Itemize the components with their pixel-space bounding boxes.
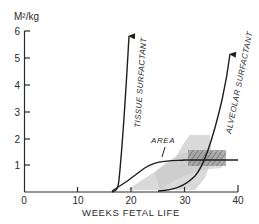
- y-axis-label: M²/kg: [14, 11, 39, 22]
- y-axis: [25, 31, 31, 192]
- y-tick-5: 5: [14, 53, 20, 64]
- x-axis-label: WEEKS FETAL LIFE: [82, 207, 180, 218]
- x-tick-10: 10: [72, 195, 84, 206]
- x-tick-0: 0: [21, 195, 27, 206]
- x-tick-40: 40: [232, 195, 244, 206]
- y-tick-2: 2: [14, 134, 20, 145]
- x-tick-labels: 0 10 20 30 40: [21, 195, 244, 206]
- y-tick-6: 6: [14, 26, 20, 37]
- y-tick-4: 4: [14, 80, 20, 91]
- area-leader-line: [162, 147, 165, 157]
- y-tick-labels: 6 5 4 3 2 1: [14, 26, 20, 171]
- chart: M²/kg 6 5 4 3 2 1 0 10 20 30 40 WEEKS: [0, 0, 259, 224]
- alveolar-surfactant-label: ALVEOLAR SURFACTANT: [224, 30, 255, 135]
- tissue-surfactant-curve: [112, 36, 129, 192]
- tissue-surfactant-label: TISSUE SURFACTANT: [133, 37, 148, 129]
- x-tick-20: 20: [125, 195, 137, 206]
- y-tick-3: 3: [14, 107, 20, 118]
- x-tick-30: 30: [179, 195, 191, 206]
- area-label: AREA: [150, 136, 175, 145]
- x-axis: [25, 185, 239, 192]
- y-tick-1: 1: [14, 160, 20, 171]
